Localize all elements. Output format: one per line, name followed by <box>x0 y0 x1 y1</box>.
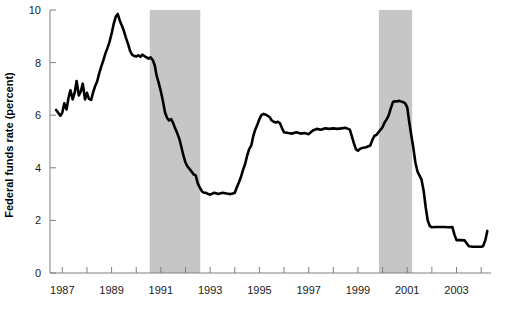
y-tick-label: 6 <box>35 109 41 121</box>
x-tick-label: 1999 <box>346 284 370 296</box>
figure-container: 0246810 19871989199119931995199719992001… <box>0 0 507 324</box>
x-axis-tick-labels: 198719891991199319951997199920012003 <box>50 284 469 296</box>
x-tick-label: 1995 <box>247 284 271 296</box>
x-tick-label: 2003 <box>444 284 468 296</box>
x-tick-label: 1989 <box>99 284 123 296</box>
x-tick-label: 1997 <box>296 284 320 296</box>
y-tick-label: 2 <box>35 214 41 226</box>
x-tick-label: 1993 <box>198 284 222 296</box>
x-tick-label: 1991 <box>149 284 173 296</box>
recession-2001 <box>379 10 412 273</box>
y-tick-label: 8 <box>35 57 41 69</box>
y-axis-title: Federal funds rate (percent) <box>3 72 15 218</box>
recession-1990-1991 <box>150 10 201 273</box>
y-tick-label: 4 <box>35 162 41 174</box>
x-tick-label: 2001 <box>395 284 419 296</box>
federal-funds-rate-line-chart: 0246810 19871989199119931995199719992001… <box>0 0 507 324</box>
y-tick-label: 0 <box>35 267 41 279</box>
chart-background <box>0 0 507 324</box>
x-tick-label: 1987 <box>50 284 74 296</box>
y-tick-label: 10 <box>29 4 41 16</box>
